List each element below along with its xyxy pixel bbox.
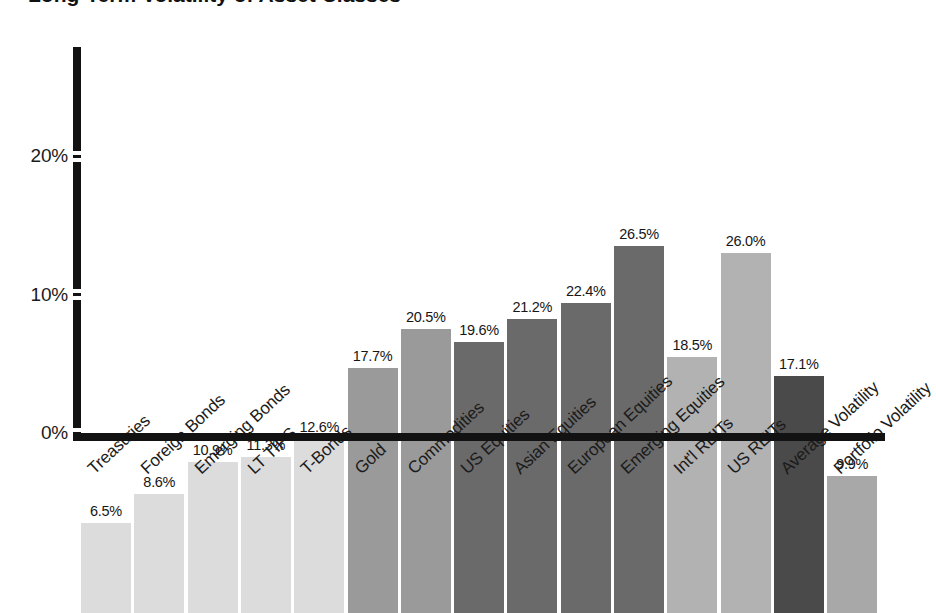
- category-label-emerging-bonds: Emerging Bonds: [191, 380, 295, 478]
- y-axis-segment: [73, 300, 81, 428]
- y-axis-tick-label: 10%: [4, 284, 68, 306]
- category-label-gold: Gold: [351, 440, 390, 479]
- y-axis-tick-label: 20%: [4, 145, 68, 167]
- y-axis-tick-label-wrap: 0%: [4, 422, 68, 444]
- category-label-t-bonds: T-Bonds: [297, 422, 356, 479]
- y-axis-tick-label-wrap: 20%: [4, 145, 68, 167]
- y-axis-segment: [73, 162, 81, 290]
- x-axis-line: [73, 433, 885, 441]
- y-axis-tick: [73, 155, 81, 158]
- y-axis-segment: [73, 47, 81, 151]
- y-axis-tick-label: 0%: [4, 422, 68, 444]
- y-axis-tick-label-wrap: 10%: [4, 284, 68, 306]
- category-label-portfolio-volatility: Portfolio Volatility: [830, 378, 935, 478]
- y-axis-tick: [73, 293, 81, 296]
